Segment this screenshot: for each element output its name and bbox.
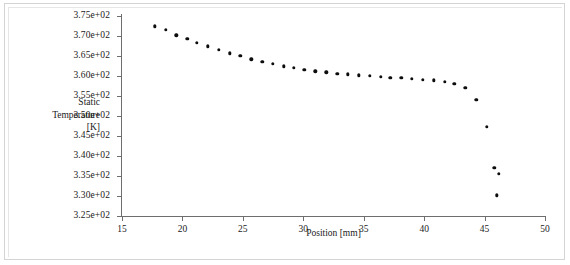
data-point xyxy=(250,57,253,60)
data-point xyxy=(389,76,392,79)
x-tick xyxy=(303,216,304,221)
y-tick: 3.50e+02 xyxy=(117,116,122,117)
data-point xyxy=(453,82,456,85)
data-point xyxy=(314,69,317,72)
x-tick xyxy=(485,216,486,221)
data-point xyxy=(443,80,446,83)
chart-screenshot: Static Temperature [K] 3.25e+023.30e+023… xyxy=(0,0,570,265)
x-tick xyxy=(545,216,546,221)
data-point xyxy=(228,51,231,54)
data-point xyxy=(303,68,306,71)
data-point xyxy=(464,86,467,89)
data-point xyxy=(495,193,498,196)
data-point xyxy=(217,48,220,51)
y-tick-label: 3.30e+02 xyxy=(74,189,111,202)
data-point xyxy=(206,45,209,48)
y-tick-label: 3.35e+02 xyxy=(74,169,111,182)
y-tick-label: 3.25e+02 xyxy=(74,209,111,222)
y-tick-label: 3.70e+02 xyxy=(74,29,111,42)
plot-area: 3.25e+023.30e+023.35e+023.40e+023.45e+02… xyxy=(122,16,545,216)
y-tick-label: 3.55e+02 xyxy=(74,89,111,102)
y-tick-label: 3.75e+02 xyxy=(74,9,111,22)
data-point xyxy=(335,72,338,75)
y-tick: 3.35e+02 xyxy=(117,176,122,177)
data-point xyxy=(186,37,189,40)
y-tick: 3.30e+02 xyxy=(117,196,122,197)
data-point xyxy=(346,73,349,76)
data-point xyxy=(399,76,402,79)
data-point xyxy=(325,71,328,74)
y-tick-label: 3.50e+02 xyxy=(74,109,111,122)
x-tick xyxy=(364,216,365,221)
y-tick: 3.75e+02 xyxy=(117,16,122,17)
y-tick: 3.65e+02 xyxy=(117,56,122,57)
data-point xyxy=(474,98,477,101)
data-point xyxy=(379,75,382,78)
data-point xyxy=(195,41,198,44)
x-tick xyxy=(424,216,425,221)
data-point xyxy=(175,33,178,36)
data-point xyxy=(164,28,167,31)
y-tick-label: 3.60e+02 xyxy=(74,69,111,82)
y-tick: 3.45e+02 xyxy=(117,136,122,137)
y-tick: 3.70e+02 xyxy=(117,36,122,37)
y-tick: 3.55e+02 xyxy=(117,96,122,97)
x-tick xyxy=(122,216,123,221)
data-point xyxy=(292,66,295,69)
x-axis-line xyxy=(121,216,546,217)
data-point xyxy=(153,25,156,28)
y-tick: 3.60e+02 xyxy=(117,76,122,77)
x-tick xyxy=(243,216,244,221)
x-axis-title: Position [mm] xyxy=(122,228,545,238)
data-point xyxy=(239,54,242,57)
data-point xyxy=(497,172,500,175)
data-point xyxy=(282,65,285,68)
data-point xyxy=(271,62,274,65)
y-tick-label: 3.45e+02 xyxy=(74,129,111,142)
data-point xyxy=(493,166,496,169)
data-point xyxy=(485,125,488,128)
y-tick-label: 3.40e+02 xyxy=(74,149,111,162)
y-tick-label: 3.65e+02 xyxy=(74,49,111,62)
data-point xyxy=(410,77,413,80)
x-tick xyxy=(182,216,183,221)
data-point xyxy=(432,79,435,82)
data-point xyxy=(260,60,263,63)
data-point xyxy=(357,73,360,76)
data-point xyxy=(368,74,371,77)
data-point xyxy=(421,78,424,81)
y-tick: 3.40e+02 xyxy=(117,156,122,157)
